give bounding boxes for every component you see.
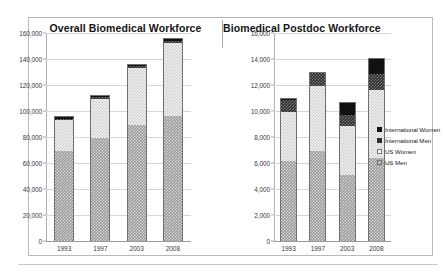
y-tick-mark-0: [43, 241, 46, 242]
bar-1993[interactable]: [280, 98, 297, 241]
y-tick-mark-10000: [271, 111, 274, 112]
y-tick-label-40000: 40,000: [23, 186, 42, 193]
bar-segment-us-women: [55, 120, 73, 151]
x-tick-label-2003: 2003: [119, 245, 155, 252]
y-tick-mark-6000: [271, 163, 274, 164]
legend-item-us-men[interactable]: US Men: [377, 157, 443, 168]
x-tick-label-2008: 2008: [155, 245, 191, 252]
y-tick-mark-60000: [43, 163, 46, 164]
y-tick-mark-140000: [43, 59, 46, 60]
y-tick-label-20000: 20,000: [23, 212, 42, 219]
legend-label: US Women: [385, 148, 416, 155]
y-tick-label-0: 0: [38, 238, 42, 245]
y-tick-label-140000: 140,000: [19, 56, 42, 63]
bar-1993[interactable]: [54, 116, 74, 241]
y-tick-label-120000: 120,000: [19, 82, 42, 89]
bar-segment-international-men: [281, 100, 296, 112]
plot-area-postdoc: 02,0004,0006,0008,00010,00012,00014,0001…: [274, 33, 391, 241]
legend-swatch-intl-women-icon: [377, 127, 382, 132]
bar-segment-us-women: [164, 43, 182, 115]
bar-segment-us-women: [128, 68, 146, 125]
gridline-160000: [46, 33, 191, 34]
y-tick-label-12000: 12,000: [251, 82, 270, 89]
bar-segment-us-women: [340, 126, 355, 175]
bar-segment-us-men: [55, 151, 73, 241]
y-tick-mark-16000: [271, 33, 274, 34]
chart-legend: International WomenInternational MenUS W…: [377, 124, 443, 168]
x-tick-label-1997: 1997: [303, 245, 332, 252]
x-tick-label-2003: 2003: [333, 245, 362, 252]
bar-segment-us-women: [281, 112, 296, 161]
bar-segment-us-women: [91, 99, 109, 138]
legend-label: International Men: [385, 137, 431, 144]
legend-item-intl-men[interactable]: International Men: [377, 135, 443, 146]
legend-label: US Men: [385, 159, 407, 166]
y-tick-label-80000: 80,000: [23, 134, 42, 141]
bar-1997[interactable]: [309, 72, 326, 241]
bar-segment-international-men: [340, 115, 355, 127]
bar-segment-us-men: [128, 125, 146, 241]
bar-1997[interactable]: [90, 95, 110, 241]
y-tick-mark-14000: [271, 59, 274, 60]
x-tick-label-1993: 1993: [46, 245, 82, 252]
bar-2003[interactable]: [127, 64, 147, 241]
plot-area-overall: 020,00040,00060,00080,000100,000120,0001…: [46, 33, 191, 241]
legend-item-intl-women[interactable]: International Women: [377, 124, 443, 135]
legend-swatch-us-men-icon: [377, 160, 382, 165]
y-tick-label-16000: 16,000: [251, 30, 270, 37]
x-tick-label-2008: 2008: [362, 245, 391, 252]
x-tick-label-1993: 1993: [274, 245, 303, 252]
legend-item-us-women[interactable]: US Women: [377, 146, 443, 157]
bar-2003[interactable]: [339, 102, 356, 241]
legend-swatch-intl-men-icon: [377, 138, 382, 143]
bar-segment-international-women: [369, 59, 384, 75]
legend-swatch-us-women-icon: [377, 149, 382, 154]
bar-segment-us-men: [340, 175, 355, 241]
y-tick-mark-160000: [43, 33, 46, 34]
y-tick-mark-2000: [271, 215, 274, 216]
caption-divider-rule: [18, 264, 438, 265]
bar-segment-us-men: [369, 158, 384, 241]
bar-2008[interactable]: [163, 38, 183, 241]
y-tick-mark-12000: [271, 85, 274, 86]
bar-segment-us-women: [310, 86, 325, 151]
y-tick-label-4000: 4,000: [254, 186, 270, 193]
bar-segment-us-men: [310, 151, 325, 241]
y-tick-label-6000: 6,000: [254, 160, 270, 167]
y-tick-mark-8000: [271, 137, 274, 138]
y-tick-label-14000: 14,000: [251, 56, 270, 63]
y-tick-label-0: 0: [266, 238, 270, 245]
y-tick-label-60000: 60,000: [23, 160, 42, 167]
y-tick-label-160000: 160,000: [19, 30, 42, 37]
y-tick-mark-100000: [43, 111, 46, 112]
y-tick-label-10000: 10,000: [251, 108, 270, 115]
bar-segment-international-men: [310, 73, 325, 86]
y-tick-mark-0: [271, 241, 274, 242]
y-tick-mark-20000: [43, 215, 46, 216]
figure-container: Overall Biomedical Workforce 020,00040,0…: [0, 0, 444, 277]
gridline-16000: [274, 33, 391, 34]
y-tick-mark-80000: [43, 137, 46, 138]
bar-segment-us-men: [164, 116, 182, 241]
y-tick-mark-4000: [271, 189, 274, 190]
bar-segment-international-men: [369, 74, 384, 90]
y-tick-mark-40000: [43, 189, 46, 190]
y-tick-label-8000: 8,000: [254, 134, 270, 141]
x-tick-label-1997: 1997: [82, 245, 118, 252]
legend-label: International Women: [385, 126, 440, 133]
y-tick-label-100000: 100,000: [19, 108, 42, 115]
y-tick-mark-120000: [43, 85, 46, 86]
bar-segment-us-men: [281, 161, 296, 241]
bar-segment-us-men: [91, 138, 109, 241]
y-tick-label-2000: 2,000: [254, 212, 270, 219]
bar-segment-international-women: [340, 103, 355, 115]
